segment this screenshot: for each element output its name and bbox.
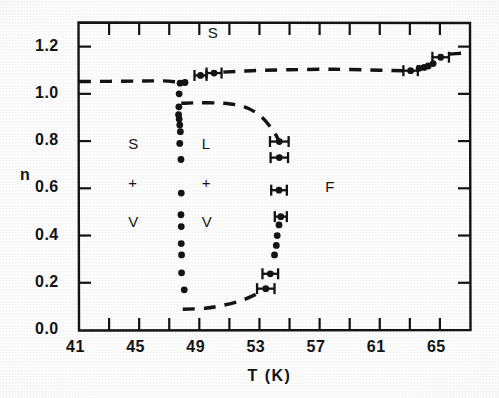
data-point-solid-branch-left bbox=[178, 223, 185, 230]
data-point-solid-branch-left bbox=[176, 122, 183, 129]
region-label-fluid: F bbox=[325, 179, 335, 194]
data-point-fluid-branch-right bbox=[262, 285, 269, 292]
data-point-solid-branch-left bbox=[176, 140, 183, 147]
region-label-liquid-vapor-v: V bbox=[202, 214, 213, 229]
region-label-solid-vapor-plus: + bbox=[128, 175, 137, 190]
boundary-curve-liquid-vapor-dome-bottom bbox=[183, 289, 266, 309]
x-tick-label-41: 41 bbox=[66, 339, 85, 355]
region-label-liquid-vapor-plus: + bbox=[202, 175, 211, 190]
data-point-fluid-branch-right bbox=[274, 232, 281, 239]
y-axis-title: n bbox=[20, 167, 30, 183]
data-point-solid-branch-left bbox=[178, 156, 185, 163]
data-point-fluid-branch-right bbox=[276, 222, 283, 229]
data-point-solid-upper-boundary-points bbox=[197, 72, 204, 79]
region-label-solid-vapor: S bbox=[128, 136, 139, 151]
data-point-fluid-branch-right bbox=[276, 154, 283, 161]
data-point-solid-branch-left bbox=[182, 79, 189, 86]
data-point-solid-branch-left bbox=[177, 128, 184, 135]
data-point-solid-branch-left bbox=[176, 116, 183, 123]
region-label-liquid-vapor: L bbox=[202, 136, 211, 151]
y-tick-label-0.2: 0.2 bbox=[35, 274, 59, 290]
y-tick-label-1.0: 1.0 bbox=[35, 85, 59, 101]
x-tick-label-57: 57 bbox=[307, 339, 326, 355]
data-point-fluid-branch-right bbox=[277, 213, 284, 220]
boundary-curve-solid-vapor-upper-boundary bbox=[79, 81, 177, 82]
x-tick-label-53: 53 bbox=[246, 339, 265, 355]
data-point-solid-branch-left bbox=[178, 211, 185, 218]
y-tick-label-0.8: 0.8 bbox=[35, 132, 59, 148]
y-tick-label-0.4: 0.4 bbox=[35, 227, 59, 243]
data-point-solid-branch-left bbox=[178, 240, 185, 247]
boundary-curve-solid-fluid-boundary-upper bbox=[223, 69, 403, 72]
phase-diagram-figure: 414549535761650.00.20.40.60.81.01.2T (K)… bbox=[0, 0, 499, 398]
data-point-solid-branch-left bbox=[175, 103, 182, 110]
data-point-solid-branch-left bbox=[178, 190, 185, 197]
data-point-solid-branch-left bbox=[178, 269, 185, 276]
boundary-curve-liquid-vapor-dome-top bbox=[181, 103, 279, 141]
data-point-solid-branch-left bbox=[181, 286, 188, 293]
data-point-solid-branch-left bbox=[178, 252, 185, 259]
data-point-solid-upper-boundary-points bbox=[211, 70, 218, 77]
data-point-fluid-branch-right bbox=[271, 252, 278, 259]
y-tick-label-0.6: 0.6 bbox=[35, 179, 59, 195]
y-tick-label-1.2: 1.2 bbox=[35, 38, 59, 54]
y-tick-label-0.0: 0.0 bbox=[35, 321, 59, 337]
data-point-solid-branch-left bbox=[176, 90, 183, 97]
boundary-curve-fluid-boundary-high-T bbox=[449, 53, 470, 54]
data-point-solid-upper-boundary-points bbox=[437, 54, 444, 61]
data-point-fluid-branch-right bbox=[276, 138, 283, 145]
data-point-solid-upper-boundary-points bbox=[407, 67, 414, 74]
region-label-solid-vapor-v: V bbox=[128, 214, 139, 229]
region-label-solid: S bbox=[208, 25, 219, 40]
data-point-fluid-branch-right bbox=[267, 270, 274, 277]
x-tick-label-65: 65 bbox=[427, 339, 446, 355]
data-point-fluid-branch-right bbox=[273, 242, 280, 249]
x-axis-title: T (K) bbox=[248, 368, 292, 384]
data-point-fluid-branch-right bbox=[276, 187, 283, 194]
x-tick-label-45: 45 bbox=[126, 339, 145, 355]
x-tick-label-49: 49 bbox=[186, 339, 205, 355]
x-tick-label-61: 61 bbox=[367, 339, 386, 355]
